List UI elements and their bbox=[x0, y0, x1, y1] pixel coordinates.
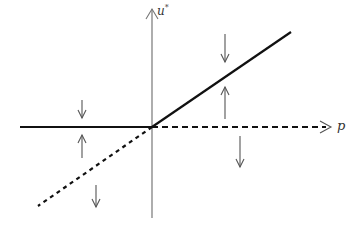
p-axis-label: p bbox=[337, 118, 345, 133]
arrow-down-icon bbox=[92, 185, 100, 207]
arrow-down-icon bbox=[221, 34, 229, 62]
u-axis-label: u* bbox=[157, 3, 169, 18]
unstable-branch-left bbox=[38, 127, 152, 206]
p-axis-dashed-branch bbox=[152, 121, 331, 133]
bifurcation-diagram: u* p bbox=[0, 0, 360, 229]
arrow-down-icon bbox=[236, 136, 244, 167]
diagram-svg bbox=[0, 0, 360, 229]
arrow-up-icon bbox=[221, 87, 229, 119]
arrow-down-icon bbox=[78, 100, 86, 118]
arrow-up-icon bbox=[78, 135, 86, 158]
stable-branch-right bbox=[152, 32, 291, 127]
u-axis bbox=[146, 9, 158, 218]
